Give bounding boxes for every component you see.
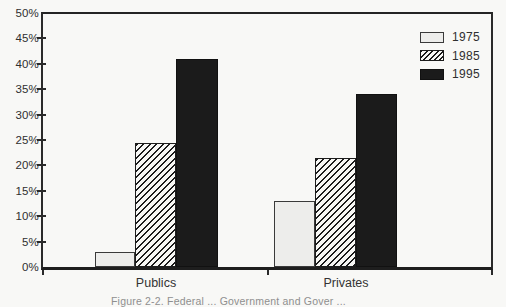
figure-caption: Figure 2-2. Federal ... Government and G… [111,295,346,307]
x-axis-category-label: Privates [301,276,391,290]
y-axis-tick-mark [37,37,46,39]
y-axis-tick-label: 35% [0,82,39,96]
y-axis-tick-label: 50% [0,6,39,20]
legend-label: 1985 [452,49,480,63]
legend-item-1975: 1975 [420,30,480,44]
bar-publics-1985 [135,143,176,267]
y-axis-tick-mark [37,88,46,90]
y-axis-tick-label: 5% [0,235,39,249]
bar-publics-1975 [95,252,135,267]
legend-item-1985: 1985 [420,49,480,63]
x-axis-tick-mark [491,270,493,275]
legend-swatch-plain-icon [420,32,444,43]
x-axis-category-label: Publics [111,276,201,290]
y-axis-tick-label: 45% [0,31,39,45]
y-axis-tick-label: 0% [0,260,39,274]
y-axis-tick-mark [37,190,46,192]
y-axis-tick-label: 15% [0,184,39,198]
y-axis-tick-mark [37,114,46,116]
legend-label: 1975 [452,30,480,44]
bar-publics-1995 [176,59,218,267]
y-axis-tick-mark [37,164,46,166]
x-axis-tick-mark [42,270,44,275]
y-axis-tick-mark [37,63,46,65]
y-axis-tick-label: 25% [0,133,39,147]
y-axis-tick-mark [37,215,46,217]
legend-item-1995: 1995 [420,67,480,81]
legend-swatch-solid-icon [420,69,444,80]
bar-privates-1975 [274,201,315,267]
bar-privates-1995 [356,94,397,267]
y-axis-tick-mark [37,241,46,243]
y-axis-tick-label: 30% [0,108,39,122]
y-axis-tick-mark [37,139,46,141]
x-axis-tick-mark [267,270,269,275]
y-axis-tick-label: 10% [0,209,39,223]
legend-swatch-hatch-icon [420,50,444,61]
y-axis-tick-label: 20% [0,158,39,172]
legend-label: 1995 [452,67,480,81]
bar-privates-1985 [315,158,356,267]
y-axis-tick-label: 40% [0,57,39,71]
